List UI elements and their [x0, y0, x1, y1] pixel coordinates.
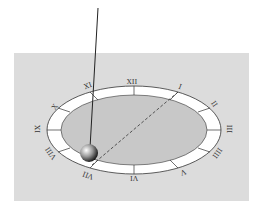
pendulum-bob [80, 144, 98, 162]
pendulum-clock-diagram: XIIIIIIIIIIIIVVIVIIVIIIIXXXI [0, 0, 255, 207]
numeral-iii: III [225, 125, 233, 134]
numeral-vi: VI [130, 174, 139, 182]
numeral-ix: IX [34, 125, 42, 133]
numeral-xii: XII [127, 78, 138, 86]
